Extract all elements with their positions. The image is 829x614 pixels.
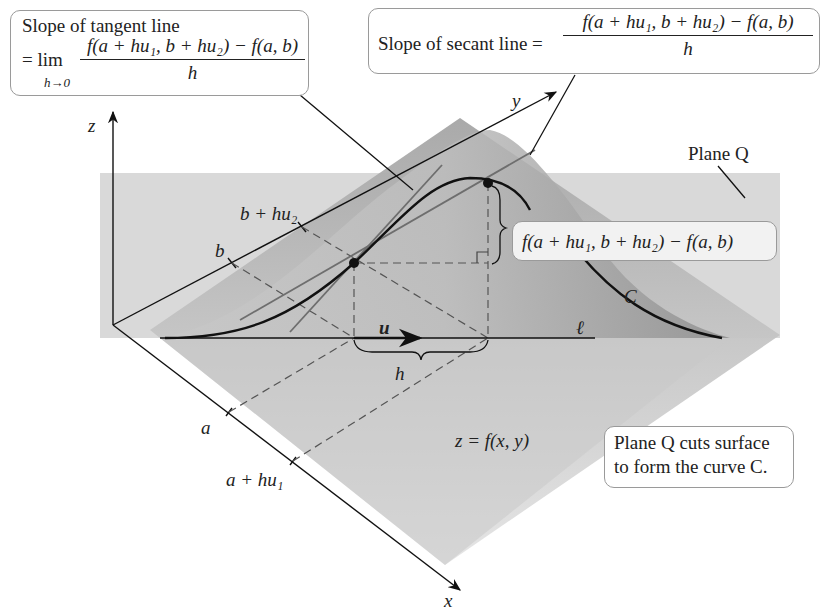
b-plus-hu2-label: b + hu₂ — [240, 204, 297, 223]
secant-numerator: f(a + hu₁, b + hu₂) − f(a, b) — [563, 12, 813, 36]
y-axis-label: y — [512, 91, 520, 110]
secant-denominator: h — [563, 36, 813, 60]
step-h-label: h — [395, 364, 405, 383]
vector-u-label: u — [379, 318, 390, 337]
x-axis-label: x — [444, 591, 452, 610]
surface-label: z = f(x, y) — [455, 431, 529, 450]
a-plus-hu1-label: a + hu₁ — [226, 470, 283, 489]
b-label: b — [215, 241, 225, 260]
tangent-callout-fraction: f(a + hu₁, b + hu₂) − f(a, b) h — [80, 36, 305, 84]
tangent-callout-title: Slope of tangent line — [22, 16, 180, 35]
a-label: a — [201, 418, 211, 437]
tangent-numerator: f(a + hu₁, b + hu₂) − f(a, b) — [80, 36, 305, 60]
plane-note-line2: to form the curve C. — [614, 457, 768, 476]
tangent-denominator: h — [80, 60, 305, 84]
secant-callout-fraction: f(a + hu₁, b + hu₂) − f(a, b) h — [563, 12, 813, 60]
point-a-hu-b-hu — [483, 178, 493, 188]
tangent-callout-lim: = lim — [22, 50, 63, 69]
line-l-label: ℓ — [576, 318, 584, 337]
curve-c-label: C — [624, 287, 637, 306]
difference-text: f(a + hu₁, b + hu₂) − f(a, b) — [522, 232, 733, 251]
point-a-b — [349, 258, 359, 268]
z-axis-label: z — [88, 116, 95, 135]
tangent-callout-limit-sub: h→0 — [44, 76, 70, 89]
plane-q-label: Plane Q — [688, 144, 749, 163]
plane-note-line1: Plane Q cuts surface — [614, 433, 770, 452]
secant-callout-label: Slope of secant line = — [378, 34, 543, 53]
